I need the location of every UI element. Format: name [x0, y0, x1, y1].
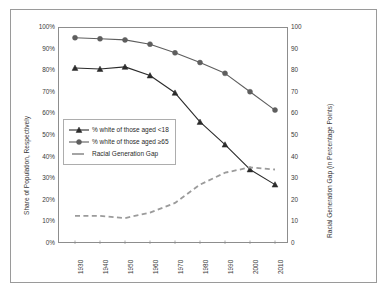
legend-item: % white of those aged <18: [68, 124, 169, 136]
legend-dash-icon: [68, 149, 90, 159]
y2-tick-label: 40: [291, 154, 298, 160]
series-over65: [73, 35, 278, 112]
x-tick-label: 1930: [77, 260, 84, 274]
y2-tick-label: 10: [291, 218, 298, 224]
y-tick-label: 70%: [42, 89, 55, 95]
y-tick-label: 20%: [42, 197, 55, 203]
legend-label: Racial Generation Gap: [92, 151, 158, 158]
right-axis-title: Racial Generation Gap (in Percentage Poi…: [326, 104, 333, 238]
y2-tick-label: 90: [291, 46, 298, 52]
x-tick-label: 2010: [277, 260, 284, 274]
y2-tick-label: 70: [291, 89, 298, 95]
y-tick-label: 50%: [42, 132, 55, 138]
y2-tick-label: 80: [291, 67, 298, 73]
legend-label: % white of those aged <18: [92, 127, 169, 134]
y-tick-label: 80%: [42, 67, 55, 73]
legend-label: % white of those aged ≥65: [92, 139, 169, 146]
left-axis-ticks: 0%10%20%30%40%50%60%70%80%90%100%: [28, 27, 55, 243]
legend-triangle-icon: [68, 125, 90, 135]
y2-tick-label: 30: [291, 175, 298, 181]
y2-tick-label: 20: [291, 197, 298, 203]
legend-item: Racial Generation Gap: [68, 148, 169, 160]
left-axis-title: Share of Population, Respectively: [23, 116, 30, 215]
legend-item: % white of those aged ≥65: [68, 136, 169, 148]
x-tick-label: 1980: [202, 260, 209, 274]
x-tick-label: 1970: [177, 260, 184, 274]
y-tick-label: 60%: [42, 110, 55, 116]
legend-circle-icon: [68, 137, 90, 147]
y2-tick-label: 60: [291, 110, 298, 116]
y-tick-label: 30%: [42, 175, 55, 181]
x-tick-label: 1990: [227, 260, 234, 274]
y2-tick-label: 0: [291, 240, 295, 246]
series-generation-gap: [75, 167, 275, 218]
y-tick-label: 40%: [42, 154, 55, 160]
y2-tick-label: 100: [291, 24, 302, 30]
chart-figure: 0%10%20%30%40%50%60%70%80%90%100% 010203…: [0, 0, 387, 296]
y-tick-label: 100%: [39, 24, 55, 30]
y-tick-label: 0%: [46, 240, 55, 246]
x-tick-label: 1940: [102, 260, 109, 274]
x-tick-label: 1960: [152, 260, 159, 274]
x-tick-label: 2000: [252, 260, 259, 274]
chart-legend: % white of those aged <18% white of thos…: [63, 119, 176, 165]
y-tick-label: 90%: [42, 46, 55, 52]
x-axis-ticks: 193019401950196019701980199020002010: [58, 246, 288, 286]
x-tick-label: 1950: [127, 260, 134, 274]
right-axis-ticks: 0102030405060708090100: [291, 27, 313, 243]
y2-tick-label: 50: [291, 132, 298, 138]
y-tick-label: 10%: [42, 218, 55, 224]
